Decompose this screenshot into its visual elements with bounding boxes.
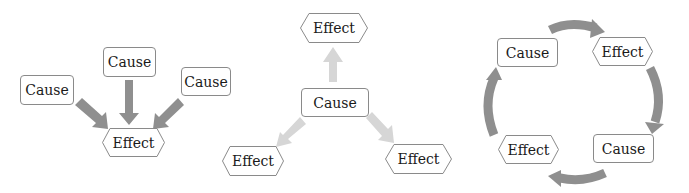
arrow-cycle-right xyxy=(650,68,659,122)
arrow-down-right xyxy=(366,112,394,143)
effect-hexagon-left: Effect xyxy=(222,146,284,176)
effect-label: Effect xyxy=(508,142,550,158)
cause-label: Cause xyxy=(108,54,152,70)
effect-label: Effect xyxy=(232,153,274,169)
effect-label: Effect xyxy=(602,44,644,60)
arrow-down-left xyxy=(276,117,306,147)
effect-label: Effect xyxy=(113,135,155,151)
effect-hexagon: Effect xyxy=(102,128,165,157)
cause-label: Cause xyxy=(506,45,550,61)
effect-hexagon-top: Effect xyxy=(300,13,368,43)
cause-label: Cause xyxy=(313,95,357,111)
cause-box-center: Cause xyxy=(301,88,369,117)
arrow-top-to-effect xyxy=(119,80,139,125)
arrow-cycle-top xyxy=(550,24,596,30)
arrow-cycle-bottom xyxy=(560,173,605,180)
cause-label: Cause xyxy=(184,74,228,90)
cycle-cause-box-top: Cause xyxy=(497,38,558,67)
arrow-cycle-left xyxy=(488,78,494,135)
arrow-right-to-effect xyxy=(153,98,184,129)
diagram1-arrows xyxy=(75,80,184,129)
cause-box-right: Cause xyxy=(181,67,231,96)
cause-label: Cause xyxy=(602,141,646,157)
effect-hexagon-right: Effect xyxy=(385,144,452,174)
cycle-effect-hexagon-bottom: Effect xyxy=(498,135,559,164)
effect-label: Effect xyxy=(398,151,440,167)
arrow-up xyxy=(323,47,343,82)
effect-label: Effect xyxy=(313,20,355,36)
cause-box-top: Cause xyxy=(103,47,156,77)
cause-box-left: Cause xyxy=(20,75,74,105)
arrow-left-to-effect xyxy=(75,98,108,129)
cycle-effect-hexagon-top: Effect xyxy=(592,37,653,66)
cycle-cause-box-bottom: Cause xyxy=(593,134,654,163)
cause-label: Cause xyxy=(25,82,69,98)
